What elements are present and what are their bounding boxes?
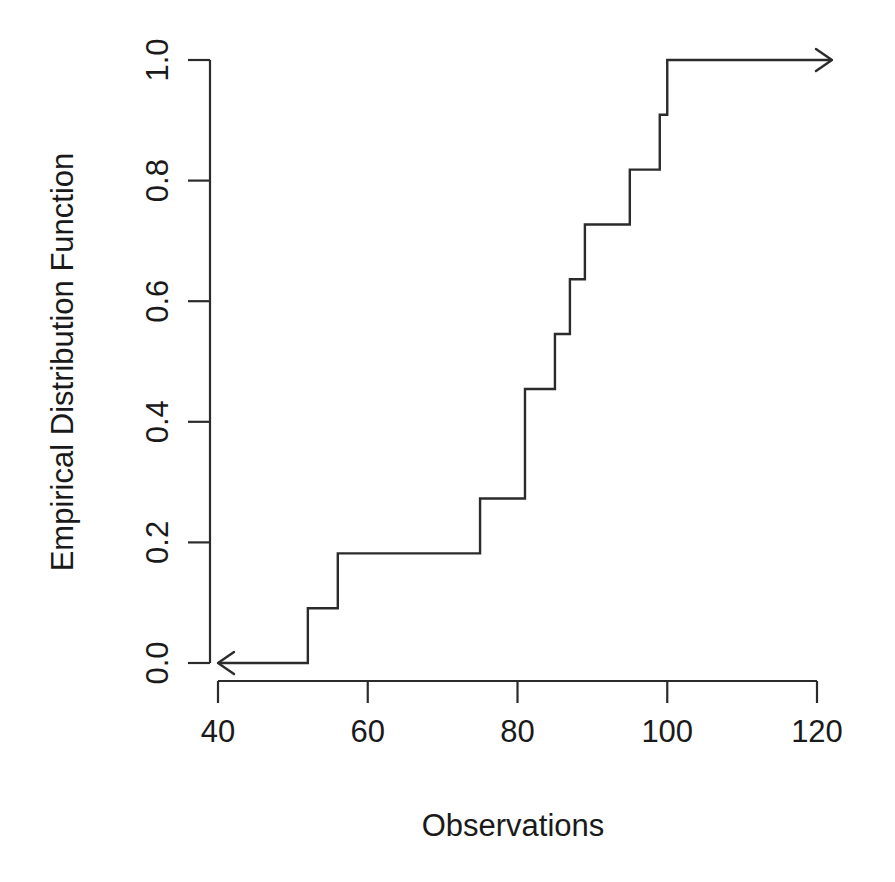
x-axis-title: Observations [422,808,605,843]
x-tick-label-2: 80 [500,714,534,749]
y-tick-label-4: 0.8 [140,159,175,202]
y-tick-label-0: 0.0 [140,641,175,684]
chart-page: 0.0 0.2 0.4 0.6 0.8 1.0 40 60 80 100 120… [0,0,895,882]
y-axis-title: Empirical Distribution Function [45,153,80,572]
y-tick-label-2: 0.4 [140,400,175,443]
y-tick-label-1: 0.2 [140,521,175,564]
x-tick-label-4: 120 [791,714,843,749]
ecdf-plot: 0.0 0.2 0.4 0.6 0.8 1.0 40 60 80 100 120… [0,0,895,882]
x-tick-label-3: 100 [641,714,693,749]
x-tick-label-0: 40 [201,714,235,749]
y-tick-label-3: 0.6 [140,280,175,323]
x-tick-label-1: 60 [351,714,385,749]
y-tick-label-5: 1.0 [140,38,175,81]
ecdf-step-line [218,60,832,663]
